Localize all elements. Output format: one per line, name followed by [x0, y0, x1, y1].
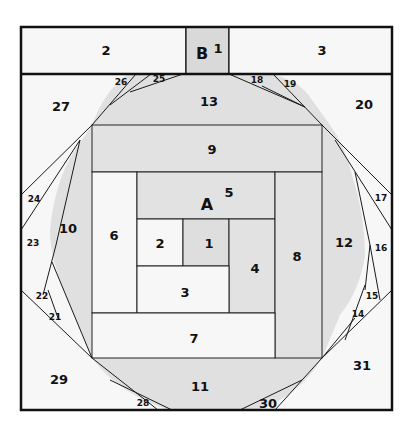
- label-a25: 25: [153, 74, 166, 84]
- quilt-block-pattern: 2 B 1 3 A 1 2 3 4 5 6 7 8 9 10 11 12 13 …: [0, 0, 416, 428]
- label-a17: 17: [375, 193, 388, 203]
- section-label-b: B: [196, 44, 208, 63]
- label-a31: 31: [353, 358, 371, 373]
- label-a15: 15: [366, 291, 379, 301]
- label-a19: 19: [284, 79, 297, 89]
- label-a12: 12: [335, 235, 353, 250]
- label-a2: 2: [155, 236, 164, 251]
- piece-8: [275, 172, 322, 358]
- label-a7: 7: [189, 331, 198, 346]
- label-a21: 21: [49, 312, 62, 322]
- label-a22: 22: [36, 291, 49, 301]
- label-a1: 1: [204, 236, 213, 251]
- piece-7: [92, 313, 275, 358]
- label-a27: 27: [52, 99, 70, 114]
- section-label-a: A: [201, 195, 214, 214]
- label-a11: 11: [191, 379, 209, 394]
- label-a16: 16: [375, 243, 388, 253]
- label-a20: 20: [355, 97, 373, 112]
- label-a23: 23: [27, 238, 40, 248]
- label-a13: 13: [200, 94, 218, 109]
- label-a6: 6: [109, 228, 118, 243]
- section-b-piece-3: [229, 27, 392, 74]
- label-b1: 1: [213, 41, 222, 56]
- label-a10: 10: [59, 221, 77, 236]
- label-a18: 18: [251, 75, 264, 85]
- label-a24: 24: [28, 194, 41, 204]
- label-a4: 4: [250, 261, 259, 276]
- label-a30: 30: [259, 396, 277, 411]
- piece-6: [92, 172, 137, 313]
- label-a5: 5: [224, 185, 233, 200]
- label-a26: 26: [115, 77, 128, 87]
- label-a3: 3: [180, 285, 189, 300]
- label-b3: 3: [317, 43, 326, 58]
- label-a28: 28: [137, 398, 150, 408]
- label-a9: 9: [207, 142, 216, 157]
- label-a14: 14: [352, 309, 365, 319]
- label-a29: 29: [50, 372, 68, 387]
- label-a8: 8: [292, 249, 301, 264]
- label-b2: 2: [101, 43, 110, 58]
